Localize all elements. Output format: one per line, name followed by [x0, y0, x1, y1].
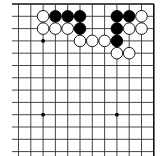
black-stone	[123, 10, 135, 22]
black-stone	[62, 10, 74, 22]
white-stone	[136, 10, 148, 22]
go-board	[0, 0, 162, 156]
white-stone	[136, 23, 148, 35]
black-stone	[111, 10, 123, 22]
star-point	[41, 113, 45, 117]
white-stone	[62, 23, 74, 35]
black-stone	[50, 10, 62, 22]
white-stone	[99, 35, 111, 47]
white-stone	[123, 47, 135, 59]
white-stone	[123, 23, 135, 35]
white-stone	[74, 35, 86, 47]
star-point	[41, 39, 45, 43]
black-stone	[74, 10, 86, 22]
black-stone	[111, 35, 123, 47]
star-point	[115, 113, 119, 117]
black-stone	[74, 23, 86, 35]
white-stone	[37, 10, 49, 22]
white-stone	[50, 23, 62, 35]
white-stone	[37, 23, 49, 35]
white-stone	[111, 47, 123, 59]
white-stone	[87, 35, 99, 47]
black-stone	[111, 23, 123, 35]
